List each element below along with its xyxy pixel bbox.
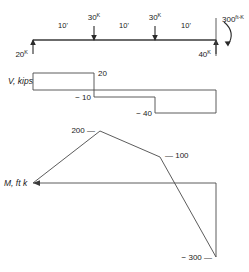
shear-outline <box>33 73 216 113</box>
moment-axis-label: M, ft k <box>4 178 28 188</box>
moment-curve <box>33 131 216 257</box>
end-moment-label: 300ft-K <box>222 14 244 24</box>
figure-svg: 10' 10' 10' 30K 30K 20K 40K 300ft-K V, k… <box>0 0 249 272</box>
right-reaction-label: 40K <box>198 49 211 59</box>
loading-diagram: 10' 10' 10' 30K 30K 20K 40K 300ft-K <box>15 12 244 59</box>
moment-value-minus300-label: − 300 — <box>182 253 212 262</box>
left-reaction-arrow <box>30 39 36 54</box>
point-load-1-label: 30K <box>88 12 101 22</box>
span-1-label: 10' <box>58 21 68 30</box>
shear-value-20-label: 20 <box>98 69 107 78</box>
span-3-label: 10' <box>181 21 191 30</box>
shear-value-minus10-label: − 10 <box>75 93 91 102</box>
span-2-label: 10' <box>119 21 129 30</box>
beam-shear-moment-figure: 10' 10' 10' 30K 30K 20K 40K 300ft-K V, k… <box>0 0 249 272</box>
shear-diagram: V, kips 20 − 10 − 40 <box>8 69 216 118</box>
shear-value-minus40-label: − 40 <box>136 109 152 118</box>
point-load-2-label: 30K <box>149 12 162 22</box>
moment-origin-marker <box>33 180 40 186</box>
point-load-1-arrow <box>91 26 97 41</box>
moment-diagram: M, ft k 200 — — 100 − 300 — <box>4 126 216 262</box>
left-reaction-label: 20K <box>15 49 28 59</box>
moment-value-200-label: 200 — <box>71 126 95 135</box>
moment-value-100-label: — 100 <box>165 151 189 160</box>
shear-axis-label: V, kips <box>8 76 34 86</box>
point-load-2-arrow <box>152 26 158 41</box>
